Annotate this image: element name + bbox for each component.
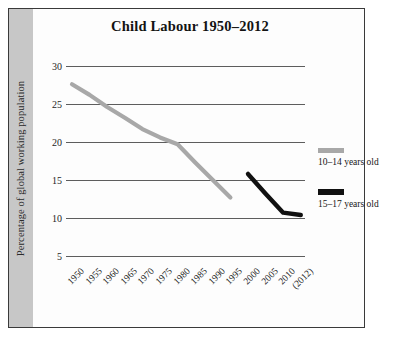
legend-entry-2[interactable]: 15–17 years old [318, 189, 364, 209]
x-tick-label: 2005 [259, 266, 280, 287]
legend-swatch-1 [318, 148, 344, 153]
y-axis-title: Percentage of global working population [9, 9, 33, 327]
chart-title: Child Labour 1950–2012 [40, 18, 340, 35]
series-layer [66, 60, 305, 265]
chart-figure: Percentage of global working population … [0, 0, 402, 339]
y-tick-label: 25 [42, 99, 62, 110]
x-tick-label: 1960 [101, 266, 122, 287]
x-tick-label: 1970 [136, 266, 157, 287]
x-tick-label: 1965 [118, 266, 139, 287]
legend-label-1: 10–14 years old [318, 157, 364, 167]
x-tick-label: 1990 [206, 266, 227, 287]
y-tick-label: 10 [42, 213, 62, 224]
x-tick-label: 1985 [189, 266, 210, 287]
legend-label-2: 15–17 years old [318, 199, 364, 209]
x-tick-label: 1955 [83, 266, 104, 287]
y-axis-title-text: Percentage of global working population [16, 80, 27, 255]
x-tick-label: 1950 [66, 266, 87, 287]
x-tick-label: 1975 [154, 266, 175, 287]
chart-legend: 10–14 years old15–17 years old [318, 148, 364, 231]
y-tick-label-group: 30252015105 [40, 60, 62, 265]
x-tick-label: 2000 [242, 266, 263, 287]
y-tick-label: 20 [42, 137, 62, 148]
legend-swatch-2 [318, 189, 344, 195]
x-tick-label-group: 1950195519601965197019751980198519901995… [66, 266, 326, 326]
plot-area [66, 60, 305, 265]
y-tick-label: 5 [42, 251, 62, 262]
y-tick-label: 30 [42, 61, 62, 72]
y-tick-label: 15 [42, 175, 62, 186]
series-line-1 [72, 84, 230, 197]
series-line-2 [248, 174, 301, 215]
legend-entry-1[interactable]: 10–14 years old [318, 148, 364, 167]
x-tick-label: 1995 [224, 266, 245, 287]
x-tick-label: 1980 [171, 266, 192, 287]
